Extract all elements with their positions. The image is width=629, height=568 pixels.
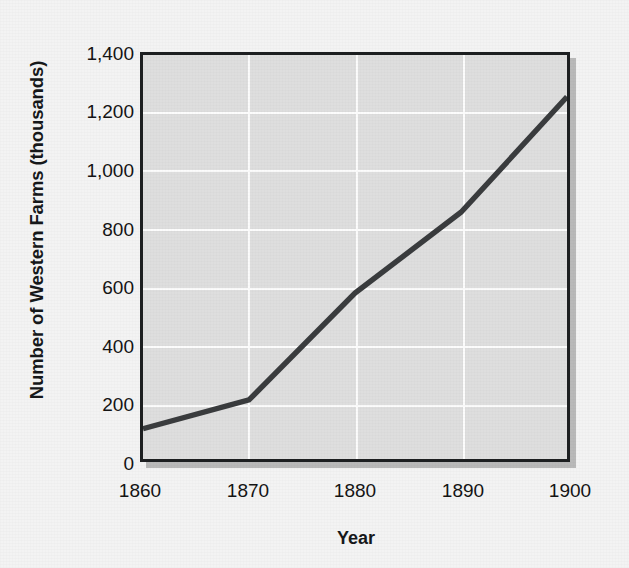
x-tick-label: 1890 bbox=[413, 481, 513, 500]
plot-area bbox=[140, 52, 570, 462]
x-tick-label: 1880 bbox=[305, 481, 405, 500]
y-tick-label: 1,400 bbox=[54, 44, 134, 63]
y-tick-label: 0 bbox=[54, 454, 134, 473]
x-tick-label: 1870 bbox=[198, 481, 298, 500]
y-tick-label: 1,200 bbox=[54, 102, 134, 121]
x-tick-label: 1860 bbox=[90, 481, 190, 500]
y-tick-label: 400 bbox=[54, 337, 134, 356]
x-axis-tick-labels: 1860 1870 1880 1890 1900 bbox=[0, 481, 629, 511]
data-series-line bbox=[143, 55, 567, 459]
y-tick-label: 800 bbox=[54, 220, 134, 239]
x-axis-title: Year bbox=[140, 528, 572, 549]
chart-figure: Number of Western Farms (thousands) 1,40… bbox=[0, 0, 629, 568]
y-tick-label: 200 bbox=[54, 395, 134, 414]
y-tick-label: 1,000 bbox=[54, 161, 134, 180]
y-tick-label: 600 bbox=[54, 278, 134, 297]
x-tick-label: 1900 bbox=[520, 481, 620, 500]
